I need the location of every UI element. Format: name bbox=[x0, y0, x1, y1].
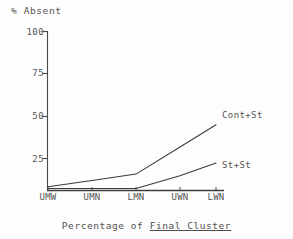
series-label-cont-st: Cont+St bbox=[222, 110, 263, 120]
caption-underlined-text: Final Cluster bbox=[150, 220, 232, 231]
series-line-cont-st bbox=[48, 125, 216, 187]
x-tick-label-umw: UMW bbox=[39, 192, 56, 202]
series-label-st-st: St+St bbox=[222, 160, 251, 170]
series-line-st-st bbox=[48, 163, 216, 188]
chart-figure: % Absent 100 75 50 25 UMW UMN LM bbox=[0, 0, 293, 239]
x-tick-label-uwn: UWN bbox=[171, 192, 188, 202]
caption-plain-text: Percentage of bbox=[62, 220, 150, 231]
x-tick-label-lmn: LMN bbox=[127, 192, 144, 202]
x-tick-label-lwn: LWN bbox=[207, 192, 224, 202]
figure-caption: Percentage of Final Cluster bbox=[0, 220, 293, 231]
y-axis-ticks bbox=[43, 32, 48, 159]
x-tick-label-umn: UMN bbox=[83, 192, 100, 202]
